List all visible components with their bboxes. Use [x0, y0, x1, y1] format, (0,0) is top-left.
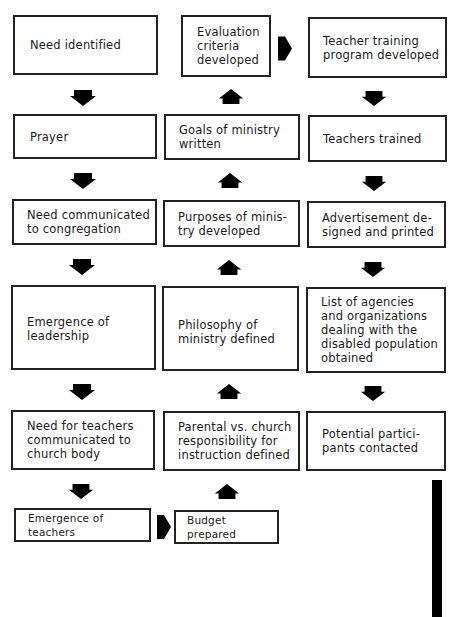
step-list-of-agencies: List of agencies and organizations deali…: [306, 287, 446, 373]
step-label: List of agencies and organizations deali…: [321, 295, 438, 365]
arrow-down-icon: [361, 91, 387, 106]
step-teachers-trained: Teachers trained: [308, 115, 447, 162]
arrow-right-icon: [157, 515, 171, 539]
step-label: Advertisement de- signed and printed: [322, 211, 434, 239]
step-potential-participants: Potential partici- pants contacted: [306, 411, 446, 471]
arrow-up-icon: [216, 260, 242, 275]
arrow-down-icon: [360, 262, 386, 277]
step-label: Need communicated to congregation: [27, 208, 150, 236]
step-label: Emergence of leadership: [27, 315, 109, 343]
step-need-identified: Need identified: [13, 15, 158, 75]
arrow-down-icon: [360, 386, 386, 401]
arrow-down-icon: [70, 90, 96, 106]
step-label: Goals of ministry written: [179, 123, 280, 151]
margin-bar: [432, 480, 442, 617]
arrow-down-icon: [69, 384, 95, 400]
arrow-down-icon: [69, 259, 95, 275]
step-purposes-of-ministry: Purposes of minis- try developed: [163, 200, 300, 247]
arrow-right-icon: [278, 36, 292, 61]
step-advertisement-designed: Advertisement de- signed and printed: [307, 201, 446, 248]
step-label: Budget prepared: [187, 513, 277, 541]
step-label: Emergence of teachers: [28, 511, 149, 539]
arrow-up-icon: [217, 173, 243, 188]
step-label: Need identified: [30, 38, 121, 52]
step-philosophy-of-ministry: Philosophy of ministry defined: [162, 286, 299, 371]
step-emergence-of-leadership: Emergence of leadership: [11, 285, 156, 370]
step-prayer: Prayer: [13, 114, 157, 159]
step-label: Teachers trained: [323, 132, 422, 146]
step-emergence-of-teachers: Emergence of teachers: [14, 508, 151, 542]
step-budget-prepared: Budget prepared: [174, 510, 279, 544]
step-goals-of-ministry: Goals of ministry written: [164, 114, 300, 160]
step-evaluation-criteria: Evaluation criteria developed: [181, 15, 271, 77]
step-teacher-training-program: Teacher training program developed: [308, 17, 447, 78]
step-need-for-teachers: Need for teachers communicated to church…: [11, 410, 155, 470]
arrow-down-icon: [70, 173, 96, 189]
step-label: Philosophy of ministry defined: [178, 318, 275, 346]
step-need-communicated: Need communicated to congregation: [12, 199, 157, 245]
step-parental-vs-church: Parental vs. church responsibility for i…: [163, 411, 300, 471]
step-label: Prayer: [30, 130, 68, 144]
arrow-up-icon: [214, 484, 240, 499]
step-label: Evaluation criteria developed: [197, 25, 260, 67]
step-label: Purposes of minis- try developed: [178, 210, 287, 238]
step-label: Parental vs. church responsibility for i…: [178, 420, 292, 462]
arrow-up-icon: [218, 89, 244, 104]
arrow-down-icon: [361, 176, 387, 191]
arrow-up-icon: [216, 384, 242, 399]
arrow-down-icon: [68, 484, 94, 499]
step-label: Need for teachers communicated to church…: [27, 419, 134, 461]
step-label: Potential partici- pants contacted: [322, 427, 420, 455]
step-label: Teacher training program developed: [323, 34, 439, 62]
